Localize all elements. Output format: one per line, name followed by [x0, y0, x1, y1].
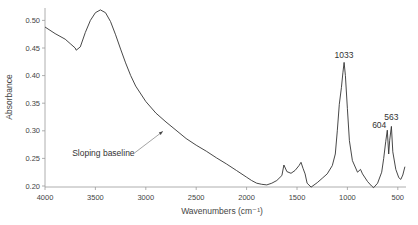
y-tick-label: 0.40 — [25, 71, 40, 80]
y-tick-label: 0.25 — [25, 154, 40, 163]
arrowhead-icon — [159, 131, 163, 135]
x-tick-label: 500 — [392, 193, 405, 202]
annotation-arrow — [134, 131, 163, 153]
x-axis-title: Wavenumbers (cm⁻¹) — [181, 206, 263, 216]
axes — [45, 8, 406, 187]
x-tick-label: 2500 — [188, 193, 205, 202]
x-tick-label: 1500 — [289, 193, 306, 202]
y-tick-label: 0.35 — [25, 99, 40, 108]
spectrum-line — [45, 10, 405, 188]
x-tick-label: 4000 — [37, 193, 54, 202]
x-tick-label: 2000 — [238, 193, 255, 202]
annotation-sloping-baseline: Sloping baseline — [72, 148, 135, 158]
ir-spectrum-chart: 0.200.250.300.350.400.450.50 40003500300… — [0, 0, 418, 225]
peak-label-563: 563 — [384, 112, 398, 122]
x-tick-label: 3000 — [137, 193, 154, 202]
x-tick-label: 1000 — [339, 193, 356, 202]
y-tick-label: 0.50 — [25, 16, 40, 25]
peak-label-1033: 1033 — [335, 50, 354, 60]
y-tick-label: 0.20 — [25, 182, 40, 191]
y-axis-title: Absorbance — [4, 74, 14, 120]
y-ticks: 0.200.250.300.350.400.450.50 — [25, 16, 45, 191]
x-ticks: 4000350030002500200015001000500 — [37, 187, 404, 202]
x-tick-label: 3500 — [87, 193, 104, 202]
y-tick-label: 0.30 — [25, 126, 40, 135]
y-tick-label: 0.45 — [25, 44, 40, 53]
